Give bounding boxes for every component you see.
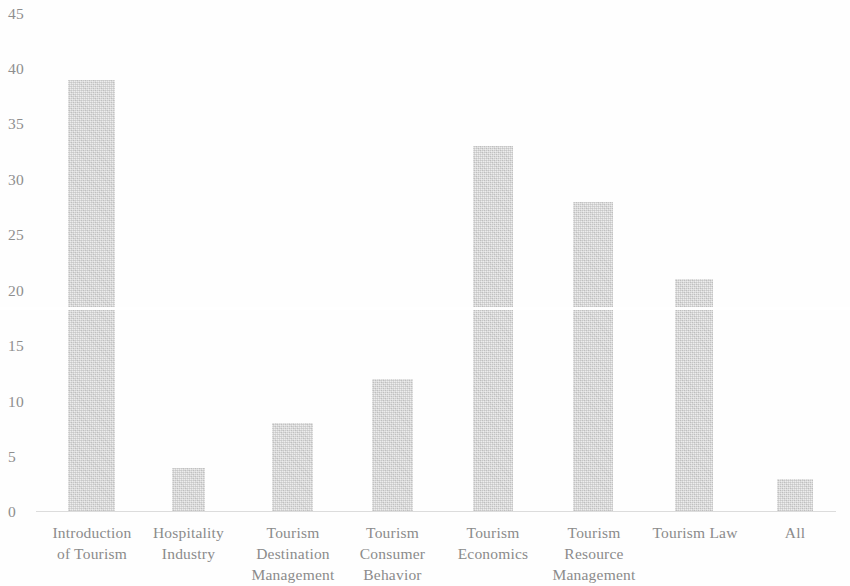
bar	[372, 379, 413, 512]
bar	[473, 146, 513, 512]
plot-area	[0, 0, 850, 512]
bar	[68, 80, 115, 512]
scan-artifact-line	[0, 307, 850, 310]
bar	[172, 468, 205, 512]
x-axis-baseline	[36, 511, 836, 512]
x-tick-label: Introduction of Tourism	[36, 522, 148, 564]
x-tick-label: Tourism Economics	[441, 522, 545, 564]
x-tick-label: Hospitality Industry	[138, 522, 239, 564]
bar	[573, 202, 613, 512]
x-tick-label: All	[760, 522, 830, 543]
x-tick-label: Tourism Destination Management	[237, 522, 349, 585]
x-tick-label: Tourism Consumer Behavior	[342, 522, 443, 585]
x-tick-label: Tourism Law	[645, 522, 745, 543]
bar-chart: 45 40 35 30 25 20 15 10 5 0 Introduction…	[0, 0, 850, 586]
bar	[675, 279, 713, 512]
bar	[272, 423, 313, 512]
bar	[777, 479, 813, 512]
x-tick-label: Tourism Resource Management	[538, 522, 650, 585]
